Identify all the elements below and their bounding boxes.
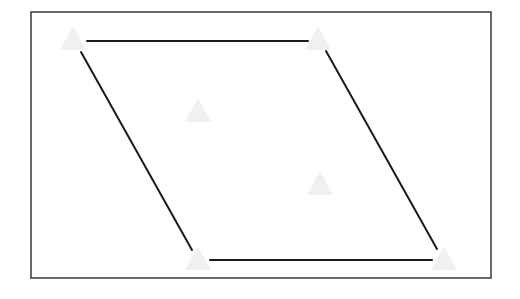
- diagram-canvas: [0, 0, 520, 299]
